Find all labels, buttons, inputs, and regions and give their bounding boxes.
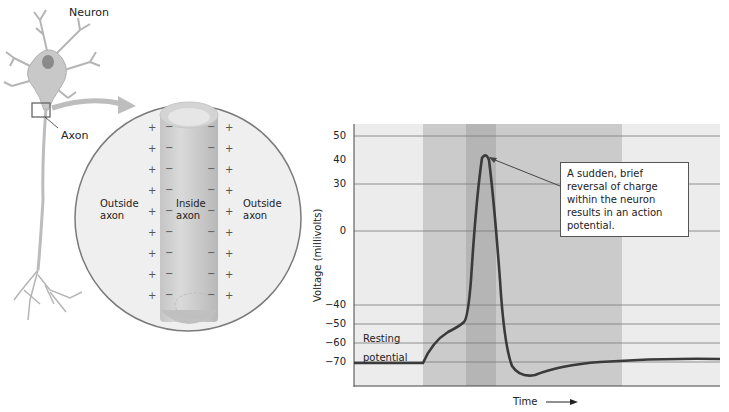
resting-potential-label: Resting potential bbox=[363, 329, 407, 367]
y-tick-minus70: −70 bbox=[318, 356, 346, 367]
y-tick-minus60: −60 bbox=[318, 337, 346, 348]
time-arrow-icon bbox=[570, 399, 578, 405]
y-tick-30: 30 bbox=[318, 178, 346, 189]
x-axis-title: Time bbox=[513, 396, 537, 407]
action-potential-callout: A sudden, brief reversal of charge withi… bbox=[560, 162, 689, 237]
y-tick-minus40: −40 bbox=[318, 299, 346, 310]
y-tick-50: 50 bbox=[318, 130, 346, 141]
y-tick-40: 40 bbox=[318, 154, 346, 165]
y-tick-minus50: −50 bbox=[318, 318, 346, 329]
y-axis-title: Voltage (millivolts) bbox=[312, 209, 323, 302]
band-depolarizing bbox=[423, 124, 466, 386]
y-tick-0: 0 bbox=[318, 225, 346, 236]
